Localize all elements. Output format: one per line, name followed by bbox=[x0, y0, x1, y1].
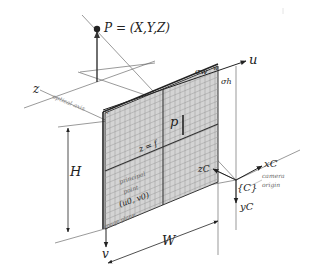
camera-model-diagram: P = (X,Y,Z) bbox=[0, 0, 326, 280]
height-label: H bbox=[69, 164, 82, 179]
z-axis-label: z bbox=[32, 82, 40, 96]
v-axis-label: v bbox=[102, 247, 109, 261]
pixel-height-label: σh bbox=[221, 77, 232, 86]
xc-axis-arrow bbox=[236, 166, 262, 180]
corner-label: 1 bbox=[106, 108, 110, 115]
optical-axis-label: optical axis bbox=[51, 92, 86, 112]
yc-axis-label: yC bbox=[239, 201, 254, 212]
pixel-w-small-label: w bbox=[213, 64, 219, 71]
width-label: W bbox=[162, 233, 177, 248]
xc-axis-label: xC bbox=[264, 158, 278, 169]
pixel-width-label: σw bbox=[195, 67, 207, 76]
camera-origin-line2: origin bbox=[262, 181, 280, 189]
u-axis-label: u bbox=[249, 52, 257, 67]
camera-origin-line1: camera bbox=[262, 172, 285, 179]
image-plane bbox=[100, 60, 225, 240]
world-point: P = (X,Y,Z) bbox=[94, 21, 171, 82]
world-point-label: P = (X,Y,Z) bbox=[103, 21, 170, 35]
zc-axis-label: zC bbox=[197, 164, 210, 174]
image-point-label: p bbox=[170, 114, 179, 129]
